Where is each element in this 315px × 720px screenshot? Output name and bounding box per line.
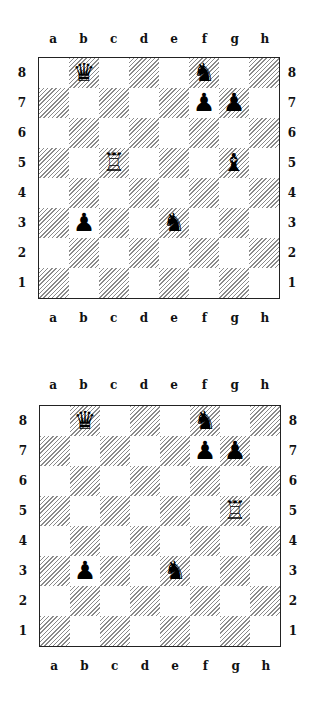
square-a2 [40, 586, 70, 616]
file-label: h [250, 378, 280, 394]
file-label: h [251, 659, 281, 675]
square-h2 [249, 238, 279, 268]
file-label: a [38, 32, 68, 48]
square-a1 [40, 616, 70, 646]
square-a3 [40, 556, 70, 586]
square-a6 [40, 466, 70, 496]
rank-label: 8 [285, 406, 301, 436]
chess-board: ♛♞♟♟♖♝♟♞ [38, 57, 280, 299]
black-queen-icon: ♛ [74, 406, 96, 436]
square-e6 [160, 466, 190, 496]
square-f4 [189, 178, 219, 208]
rank-label: 7 [15, 436, 31, 466]
file-label: h [250, 311, 280, 327]
black-knight-icon: ♞ [194, 406, 216, 436]
square-g3 [219, 208, 249, 238]
chess-diagram-1: a b c d e f g h 8 7 6 5 4 3 2 1 ♛♞♟♟♖♝♟♞… [0, 0, 315, 330]
square-g7: ♟ [219, 88, 249, 118]
black-pawn-icon: ♟ [194, 436, 216, 466]
rank-label: 8 [14, 58, 30, 88]
file-label: a [38, 378, 68, 394]
square-b1 [69, 268, 99, 298]
square-a5 [39, 148, 69, 178]
square-g8 [219, 58, 249, 88]
square-h3 [250, 556, 280, 586]
square-d7 [130, 436, 160, 466]
square-b8: ♛ [69, 58, 99, 88]
square-b2 [70, 586, 100, 616]
square-g1 [219, 268, 249, 298]
rank-label: 8 [15, 406, 31, 436]
square-d6 [129, 118, 159, 148]
square-g4 [220, 526, 250, 556]
rank-label: 2 [14, 238, 30, 268]
square-g7: ♟ [220, 436, 250, 466]
square-d6 [130, 466, 160, 496]
file-label: g [220, 378, 250, 394]
file-label: b [69, 659, 99, 675]
square-c4 [100, 526, 130, 556]
file-label: f [189, 32, 219, 48]
white-rook-icon: ♖ [224, 496, 246, 526]
square-c2 [99, 238, 129, 268]
rank-label: 4 [14, 178, 30, 208]
square-b6 [70, 466, 100, 496]
rank-label: 8 [284, 58, 300, 88]
file-label: e [159, 311, 189, 327]
file-label: d [130, 659, 160, 675]
square-e1 [160, 616, 190, 646]
rank-label: 1 [284, 268, 300, 298]
square-h4 [250, 526, 280, 556]
square-b3: ♟ [69, 208, 99, 238]
square-h6 [249, 118, 279, 148]
square-b1 [70, 616, 100, 646]
square-h8 [249, 58, 279, 88]
square-g4 [219, 178, 249, 208]
square-e2 [159, 238, 189, 268]
square-e7 [159, 88, 189, 118]
square-g2 [220, 586, 250, 616]
square-a1 [39, 268, 69, 298]
square-b3: ♟ [70, 556, 100, 586]
square-f1 [189, 268, 219, 298]
square-c7 [100, 436, 130, 466]
square-h1 [249, 268, 279, 298]
file-label: e [159, 32, 189, 48]
square-d5 [129, 148, 159, 178]
square-g3 [220, 556, 250, 586]
square-h5 [249, 148, 279, 178]
square-g1 [220, 616, 250, 646]
rank-label: 6 [284, 118, 300, 148]
rank-labels-left: 8 7 6 5 4 3 2 1 [14, 58, 30, 298]
file-label: f [189, 378, 219, 394]
square-a7 [39, 88, 69, 118]
square-c8 [100, 406, 130, 436]
black-pawn-icon: ♟ [193, 88, 215, 118]
square-g8 [220, 406, 250, 436]
square-c5 [100, 496, 130, 526]
square-a4 [40, 526, 70, 556]
square-f4 [190, 526, 220, 556]
file-labels-top: a b c d e f g h [38, 378, 280, 394]
rank-label: 5 [284, 148, 300, 178]
square-e6 [159, 118, 189, 148]
square-f8: ♞ [189, 58, 219, 88]
file-label: c [100, 659, 130, 675]
rank-labels-left: 8 7 6 5 4 3 2 1 [15, 406, 31, 646]
file-labels-bottom: a b c d e f g h [39, 659, 281, 675]
file-label: a [38, 311, 68, 327]
rank-label: 4 [15, 526, 31, 556]
square-e8 [159, 58, 189, 88]
square-f1 [190, 616, 220, 646]
rank-label: 3 [285, 556, 301, 586]
square-d3 [130, 556, 160, 586]
square-a6 [39, 118, 69, 148]
square-f8: ♞ [190, 406, 220, 436]
square-d3 [129, 208, 159, 238]
square-f3 [190, 556, 220, 586]
file-label: h [250, 32, 280, 48]
file-label: e [159, 378, 189, 394]
square-a8 [39, 58, 69, 88]
square-h2 [250, 586, 280, 616]
black-bishop-icon: ♝ [223, 148, 245, 178]
